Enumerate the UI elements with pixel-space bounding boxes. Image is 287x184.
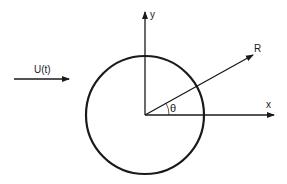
y-axis-label: y xyxy=(150,9,155,20)
radius-label: R xyxy=(254,43,261,54)
flow-label: U(t) xyxy=(34,64,51,75)
angle-label: θ xyxy=(170,102,176,114)
diagram-canvas: U(t) y x R θ xyxy=(0,0,287,184)
radius-vector xyxy=(145,55,253,115)
x-axis-label: x xyxy=(266,99,271,110)
angle-arc xyxy=(166,103,169,115)
